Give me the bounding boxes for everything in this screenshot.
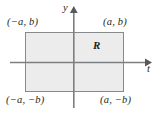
corner-label-top-right: (a, b) [103, 17, 127, 28]
y-axis-label: y [63, 3, 68, 14]
corner-label-top-left: (−a, b) [7, 17, 38, 28]
corner-label-bottom-left: (−a, −b) [6, 95, 45, 106]
coordinate-plane-figure: (−a, b) (a, b) (−a, −b) (a, −b) y t R [0, 0, 158, 114]
t-axis-label: t [147, 64, 150, 75]
corner-label-bottom-right: (a, −b) [100, 95, 131, 106]
y-axis-arrowhead [70, 6, 78, 13]
region-label: R [93, 40, 100, 51]
